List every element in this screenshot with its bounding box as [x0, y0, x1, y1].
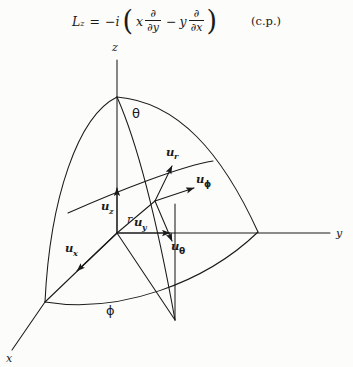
axis-label-y: y — [335, 227, 343, 240]
angular-momentum-equation: Lz = −i ( x ∂ ∂y − y ∂ ∂x ) (c.p — [72, 8, 281, 33]
axis-x-line-ext — [12, 302, 45, 350]
vector-label-u-y: u y — [134, 215, 148, 232]
equation-open-paren: ( — [122, 11, 133, 30]
equation-term2-variable: y — [179, 14, 186, 29]
equation-line: Lz = −i ( x ∂ ∂y − y ∂ ∂x ) (c.p — [0, 4, 353, 38]
angle-label-theta: θ — [132, 106, 140, 121]
equation-lhs-symbol: L — [72, 14, 80, 29]
vector-label-u-theta: u θ — [171, 239, 185, 256]
vector-label-u-theta-sub: θ — [179, 246, 185, 256]
equation-prefactor: −i — [105, 14, 119, 29]
radius-label: r — [127, 213, 133, 226]
equation-term1-variable: x — [136, 14, 143, 29]
equation-term1-numerator: ∂ — [148, 8, 158, 20]
vector-u-x-arrow — [77, 233, 117, 271]
vector-label-u-x-sub: x — [72, 248, 78, 258]
equation-note: (c.p.) — [251, 14, 281, 28]
figure-page: Lz = −i ( x ∂ ∂y − y ∂ ∂x ) (c.p — [0, 0, 353, 367]
latitude-arc — [68, 161, 213, 213]
equation-equals: = — [89, 14, 99, 29]
vector-label-u-r-sub: r — [174, 151, 179, 161]
equation-term2-numerator: ∂ — [192, 8, 202, 20]
equation-term2-denominator: ∂x — [189, 22, 205, 34]
vector-label-u-phi: u ϕ — [196, 172, 211, 189]
vector-label-u-z: u z — [101, 199, 114, 216]
equation-term1-denominator: ∂y — [145, 22, 161, 34]
axis-label-x: x — [6, 352, 13, 365]
vector-label-u-y-sub: y — [141, 222, 148, 232]
vector-label-u-x: u x — [65, 241, 78, 258]
equatorial-arc — [45, 232, 258, 305]
angle-label-phi: ϕ — [106, 303, 115, 318]
equation-term2-fraction: ∂ ∂x — [189, 8, 205, 33]
vector-label-u-z-sub: z — [108, 206, 114, 216]
equation-term1-fraction: ∂ ∂y — [145, 8, 161, 33]
vector-label-u-phi-sub: ϕ — [204, 179, 211, 189]
equation-lhs-subscript: z — [80, 19, 84, 28]
equation-close-paren: ) — [206, 11, 217, 30]
equation-minus: − — [166, 14, 176, 29]
spherical-coordinates-diagram: z y x θ ϕ r u r u ϕ u θ — [0, 38, 353, 367]
vector-label-u-r: u r — [166, 145, 179, 161]
axis-label-z: z — [111, 41, 118, 54]
